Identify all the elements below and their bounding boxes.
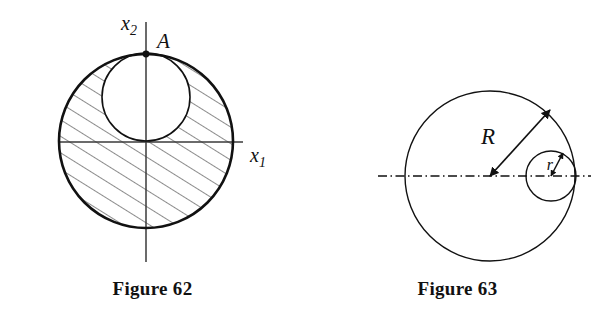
x-axis-label: x1 bbox=[249, 144, 266, 170]
point-a-marker bbox=[143, 51, 150, 58]
x-axis-label-subscript: 1 bbox=[259, 155, 266, 170]
y-axis-label: x2 bbox=[120, 12, 137, 38]
figure-62-diagram: x2 x1 A bbox=[0, 0, 305, 280]
point-a-label: A bbox=[155, 29, 170, 53]
figure-63-panel: R r Figure 63 bbox=[305, 0, 610, 316]
x-axis-label-base: x bbox=[249, 144, 259, 166]
radius-r-label: r bbox=[547, 156, 554, 173]
y-axis-label-base: x bbox=[120, 12, 130, 34]
figure-62-panel: x2 x1 A Figure 62 bbox=[0, 0, 305, 316]
radius-R-label: R bbox=[480, 124, 495, 149]
figure-62-caption: Figure 62 bbox=[0, 278, 305, 300]
y-axis-label-subscript: 2 bbox=[130, 23, 137, 38]
figures-page: x2 x1 A Figure 62 bbox=[0, 0, 610, 316]
figure-63-diagram: R r bbox=[305, 0, 610, 280]
radius-R-arrow bbox=[490, 110, 550, 176]
figure-63-caption: Figure 63 bbox=[305, 278, 610, 300]
